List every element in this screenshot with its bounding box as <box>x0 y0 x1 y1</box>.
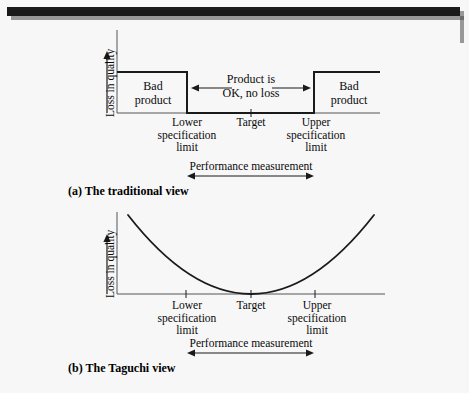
top-rule-shadow-right <box>460 11 464 43</box>
panel-b-lower-spec-limit-label: Lower specification limit <box>147 299 227 337</box>
panel-b-caption: (b) The Taguchi view <box>68 361 175 376</box>
panel-a-lower-spec-limit-label: Lower specification limit <box>147 116 227 154</box>
panel-a-upper-spec-limit-label: Upper specification limit <box>276 116 356 154</box>
panel-b-performance-measurement-label: Performance measurement <box>176 337 326 350</box>
panel-a-y-axis-label: Loss in quality <box>104 49 116 117</box>
top-rule <box>7 7 460 16</box>
panel-b-upper-spec-limit-label: Upper specification limit <box>277 299 357 337</box>
figure-container: Loss in quality Bad product Product is O… <box>0 0 469 393</box>
panel-a-caption: (a) The traditional view <box>68 184 189 199</box>
panel-a-performance-measurement-label: Performance measurement <box>176 160 326 173</box>
panel-a-right-bad-product-label: Bad product <box>318 79 380 107</box>
panel-a-target-label: Target <box>221 116 281 129</box>
panel-b-y-axis-label: Loss in quality <box>104 230 116 298</box>
panel-a-center-ok-label: Product is OK, no loss <box>211 72 291 100</box>
panel-a-left-bad-product-label: Bad product <box>122 79 184 107</box>
top-rule-shadow <box>11 16 464 20</box>
panel-b-target-label: Target <box>221 299 281 312</box>
